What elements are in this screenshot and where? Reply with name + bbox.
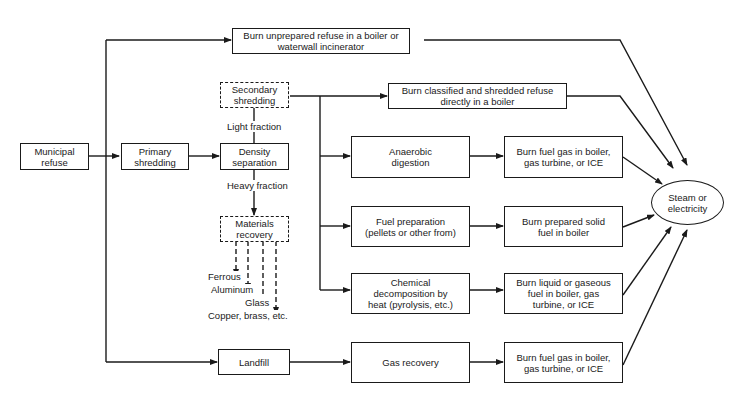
node-burn-prepared-solid: Burn prepared solid fuel in boiler — [504, 206, 623, 247]
node-primary-shredding: Primary shredding — [121, 143, 189, 170]
edge-label-heavy-fraction: Heavy fraction — [226, 180, 289, 191]
material-aluminum: Aluminum — [210, 284, 254, 295]
node-landfill: Landfill — [218, 349, 290, 375]
node-steam-or-electricity: Steam or electricity — [651, 180, 724, 225]
edge-label-light-fraction: Light fraction — [226, 121, 282, 132]
node-fuel-preparation: Fuel preparation (pellets or other from) — [351, 206, 470, 247]
node-materials-recovery: Materials recovery — [220, 216, 289, 242]
node-burn-liquid-gaseous: Burn liquid or gaseous fuel in boiler, g… — [504, 273, 623, 314]
material-ferrous: Ferrous — [207, 271, 242, 282]
node-density-separation: Density separation — [220, 143, 289, 170]
material-glass: Glass — [244, 297, 270, 308]
node-burn-fuel-gas-2: Burn fuel gas in boiler, gas turbine, or… — [504, 342, 623, 383]
node-gas-recovery: Gas recovery — [351, 342, 470, 383]
node-chemical-decomposition: Chemical decomposition by heat (pyrolysi… — [351, 273, 470, 314]
node-burn-classified: Burn classified and shredded refuse dire… — [388, 83, 567, 109]
node-burn-unprepared: Burn unprepared refuse in a boiler or wa… — [232, 28, 410, 54]
node-municipal-refuse: Municipal refuse — [20, 143, 89, 170]
node-anaerobic-digestion: Anaerobic digestion — [351, 136, 470, 178]
node-secondary-shredding: Secondary shredding — [220, 82, 289, 108]
node-burn-fuel-gas-1: Burn fuel gas in boiler, gas turbine, or… — [504, 136, 623, 178]
refuse-to-energy-flow-diagram: Municipal refuse Primary shredding Densi… — [0, 0, 745, 405]
material-copper-brass: Copper, brass, etc. — [207, 310, 289, 321]
